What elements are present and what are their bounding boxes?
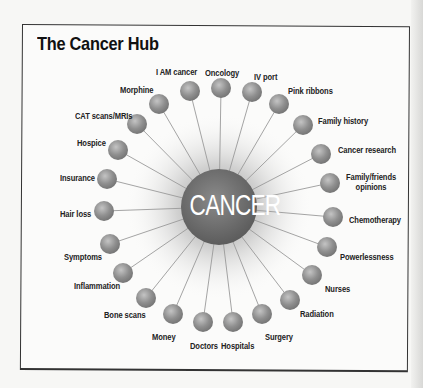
center-label: CANCER xyxy=(190,188,251,222)
node-circle xyxy=(317,237,337,257)
node-label: Hair loss xyxy=(60,209,91,219)
node-label: Radiation xyxy=(300,309,334,319)
node-label: Family history xyxy=(318,116,368,126)
node-circle xyxy=(163,304,183,324)
node-label: IV port xyxy=(254,72,277,82)
node-label: Oncology xyxy=(205,68,239,78)
node-label: I AM cancer xyxy=(156,67,197,77)
node-circle xyxy=(323,207,343,227)
node-label: Insurance xyxy=(60,173,95,183)
node-label: CAT scans/MRIs xyxy=(75,111,132,121)
node-label: Hospice xyxy=(77,138,106,148)
node-label: Hospitals xyxy=(221,341,254,351)
node-circle xyxy=(320,173,340,193)
node-label: Chemotherapy xyxy=(349,215,401,225)
node-circle xyxy=(211,78,231,98)
node-label: Family/friendsopinions xyxy=(346,172,396,192)
node-label: Bone scans xyxy=(104,310,146,320)
node-label: Surgery xyxy=(265,332,293,342)
node-circle xyxy=(223,312,243,332)
node-circle xyxy=(97,169,117,189)
node-circle xyxy=(108,140,128,160)
node-label: Cancer research xyxy=(338,145,396,155)
node-circle xyxy=(180,81,200,101)
node-circle xyxy=(193,312,213,332)
node-circle xyxy=(302,265,322,285)
node-circle xyxy=(293,115,313,135)
node-circle xyxy=(242,82,262,102)
node-label: Nurses xyxy=(325,284,350,294)
node-circle xyxy=(252,304,272,324)
node-label: Doctors xyxy=(190,341,218,351)
node-circle xyxy=(269,94,289,114)
node-circle xyxy=(149,94,169,114)
node-circle xyxy=(113,263,133,283)
node-label: Powerlessness xyxy=(340,252,394,262)
node-circle xyxy=(94,201,114,221)
node-label: Symptoms xyxy=(64,252,102,262)
node-circle xyxy=(136,288,156,308)
node-circle xyxy=(100,234,120,254)
node-circle xyxy=(280,290,300,310)
node-label: Inflammation xyxy=(74,281,120,291)
node-label: Money xyxy=(152,332,176,342)
node-label: Morphine xyxy=(120,85,153,95)
node-label: Pink ribbons xyxy=(288,86,333,96)
node-circle xyxy=(311,144,331,164)
